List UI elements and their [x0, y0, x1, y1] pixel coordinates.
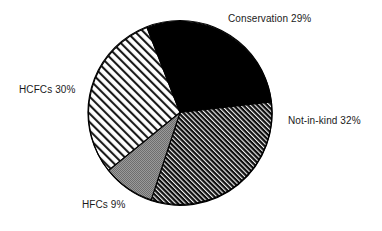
pie-label-hfcs: HFCs 9%: [82, 199, 125, 211]
pie-label-hcfcs: HCFCs 30%: [19, 84, 75, 96]
pie-label-notinkind: Not-in-kind 32%: [288, 115, 361, 127]
pie-chart-figure: Conservation 29% Not-in-kind 32% HFCs 9%…: [0, 0, 382, 231]
pie-label-conservation: Conservation 29%: [228, 13, 311, 25]
